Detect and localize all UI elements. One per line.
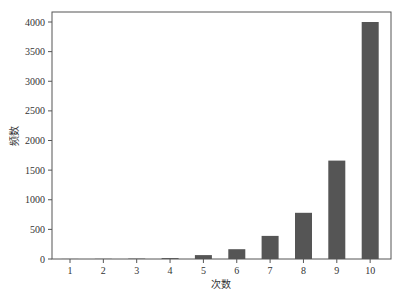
x-axis-ticks: 12345678910 bbox=[68, 259, 376, 276]
y-tick-label: 1000 bbox=[25, 194, 45, 205]
bar-chart: 05001000150020002500300035004000 1234567… bbox=[0, 0, 404, 301]
x-tick-label: 2 bbox=[101, 265, 106, 276]
y-tick-label: 3500 bbox=[25, 46, 45, 57]
y-tick-label: 2000 bbox=[25, 135, 45, 146]
x-tick-label: 5 bbox=[201, 265, 206, 276]
bar-10 bbox=[362, 22, 379, 259]
x-tick-label: 7 bbox=[268, 265, 273, 276]
y-tick-label: 500 bbox=[30, 224, 45, 235]
bar-8 bbox=[295, 213, 312, 259]
x-tick-label: 1 bbox=[68, 265, 73, 276]
y-tick-label: 3000 bbox=[25, 76, 45, 87]
y-tick-label: 4000 bbox=[25, 17, 45, 28]
x-axis-label: 次数 bbox=[211, 278, 231, 290]
y-axis-label: 频数 bbox=[8, 126, 20, 146]
bar-6 bbox=[228, 249, 245, 259]
bar-9 bbox=[328, 161, 345, 259]
x-tick-label: 6 bbox=[234, 265, 239, 276]
x-tick-label: 8 bbox=[301, 265, 306, 276]
y-tick-label: 2500 bbox=[25, 105, 45, 116]
y-tick-label: 0 bbox=[40, 254, 45, 265]
y-axis-ticks: 05001000150020002500300035004000 bbox=[25, 17, 52, 265]
x-tick-label: 4 bbox=[168, 265, 173, 276]
x-tick-label: 10 bbox=[365, 265, 375, 276]
bars bbox=[62, 22, 379, 259]
x-tick-label: 9 bbox=[334, 265, 339, 276]
y-tick-label: 1500 bbox=[25, 165, 45, 176]
bar-5 bbox=[195, 255, 212, 259]
bar-7 bbox=[262, 236, 279, 259]
x-tick-label: 3 bbox=[134, 265, 139, 276]
